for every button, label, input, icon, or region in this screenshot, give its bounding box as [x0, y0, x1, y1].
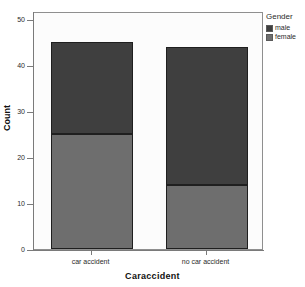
- bar-segment-female[interactable]: [51, 134, 133, 249]
- y-tick-mark: [27, 66, 33, 67]
- y-tick-label: 20: [3, 154, 25, 162]
- y-tick-mark: [27, 112, 33, 113]
- y-axis-line: [33, 12, 34, 251]
- y-tick-label: 40: [3, 62, 25, 70]
- legend-title: Gender: [266, 12, 305, 21]
- x-tick-mark: [206, 250, 207, 255]
- x-axis-title: Caraccident: [0, 271, 305, 281]
- legend-label-male: male: [275, 24, 290, 32]
- y-tick-mark: [27, 20, 33, 21]
- legend-label-female: female: [275, 33, 296, 41]
- bar-stack[interactable]: [166, 47, 248, 249]
- legend: Gender male female: [265, 12, 305, 42]
- legend-item-male[interactable]: male: [266, 24, 305, 32]
- y-tick-label: 50: [3, 16, 25, 24]
- bar-segment-male[interactable]: [51, 42, 133, 134]
- x-axis-line: [33, 250, 264, 251]
- plot-area: [33, 12, 263, 250]
- legend-swatch-female: [266, 34, 273, 41]
- y-tick-label: 10: [3, 200, 25, 208]
- y-tick-mark: [27, 250, 33, 251]
- y-axis-title: Count: [2, 88, 12, 148]
- y-tick-label: 0: [3, 246, 25, 254]
- y-tick-mark: [27, 158, 33, 159]
- bar-stack[interactable]: [51, 42, 133, 249]
- legend-swatch-male: [266, 25, 273, 32]
- x-tick-mark: [91, 250, 92, 255]
- x-tick-label: car accident: [41, 257, 141, 266]
- legend-item-female[interactable]: female: [266, 33, 305, 41]
- y-tick-mark: [27, 204, 33, 205]
- plot-inner-region: [34, 13, 262, 249]
- bar-segment-female[interactable]: [166, 185, 248, 249]
- x-tick-label: no car accident: [156, 257, 256, 266]
- stacked-bar-chart: 01020304050 car accidentno car accident …: [0, 0, 305, 287]
- bar-segment-male[interactable]: [166, 47, 248, 185]
